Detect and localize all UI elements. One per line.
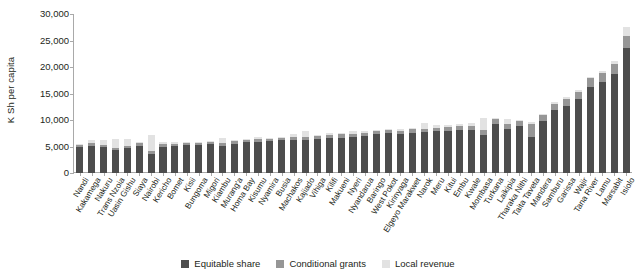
bar-segment-equitable-share — [136, 146, 143, 173]
bar-group — [243, 139, 250, 173]
bar-segment-equitable-share — [266, 141, 273, 173]
legend-label: Conditional grants — [289, 258, 366, 269]
bar-segment-equitable-share — [361, 136, 368, 173]
bar-segment-conditional-grants — [528, 124, 535, 137]
bar-segment-equitable-share — [314, 139, 321, 173]
bar-segment-equitable-share — [575, 99, 582, 173]
bar-series-group — [74, 14, 632, 173]
legend-swatch-icon — [181, 260, 189, 268]
bar-group — [231, 140, 238, 173]
bar-segment-equitable-share — [444, 131, 451, 173]
bar-group — [504, 119, 511, 173]
bar-segment-equitable-share — [516, 126, 523, 173]
bar-group — [171, 142, 178, 173]
bar-segment-equitable-share — [349, 137, 356, 173]
bar-segment-local-revenue — [148, 135, 155, 150]
bar-group — [254, 137, 261, 173]
bar-group — [159, 142, 166, 173]
bar-segment-local-revenue — [124, 139, 131, 146]
bar-segment-equitable-share — [76, 147, 83, 173]
bar-group — [468, 123, 475, 173]
bar-group — [314, 135, 321, 173]
bar-group — [112, 139, 119, 173]
y-axis-tick-label: 0 — [9, 168, 69, 178]
bar-segment-local-revenue — [480, 118, 487, 130]
bar-segment-equitable-share — [338, 138, 345, 174]
y-axis-tick-mark — [70, 173, 74, 174]
bar-segment-equitable-share — [207, 144, 214, 173]
bar-group — [100, 140, 107, 173]
bar-segment-equitable-share — [290, 140, 297, 173]
bar-segment-equitable-share — [611, 74, 618, 173]
bar-segment-equitable-share — [587, 87, 594, 173]
x-axis-labels: NandiKakamegaNakuruTrans NzoiaUasin Gish… — [74, 176, 636, 254]
bar-group — [302, 131, 309, 173]
y-axis-tick-label: 5,000 — [9, 142, 69, 152]
bar-segment-local-revenue — [623, 27, 630, 37]
bar-segment-equitable-share — [480, 135, 487, 173]
bar-segment-conditional-grants — [611, 64, 618, 74]
bar-group — [480, 118, 487, 173]
bar-group — [124, 139, 131, 173]
y-axis-tick-label: 15,000 — [9, 89, 69, 99]
bar-group — [611, 61, 618, 173]
legend-swatch-icon — [382, 260, 390, 268]
bar-group — [516, 120, 523, 174]
legend-item[interactable]: Equitable share — [181, 258, 260, 269]
bar-segment-equitable-share — [148, 154, 155, 173]
bar-segment-equitable-share — [539, 121, 546, 173]
bar-group — [183, 142, 190, 173]
bar-group — [88, 140, 95, 173]
bar-segment-equitable-share — [385, 133, 392, 173]
bar-group — [563, 97, 570, 173]
bar-segment-equitable-share — [302, 140, 309, 173]
bar-group — [207, 141, 214, 173]
legend-item[interactable]: Local revenue — [382, 258, 455, 269]
bar-group — [551, 102, 558, 173]
bar-segment-equitable-share — [278, 140, 285, 173]
legend-label: Local revenue — [395, 258, 455, 269]
bar-segment-equitable-share — [183, 145, 190, 173]
bar-segment-conditional-grants — [563, 99, 570, 106]
bar-segment-equitable-share — [397, 134, 404, 173]
legend-label: Equitable share — [194, 258, 260, 269]
y-axis-tick-label: 10,000 — [9, 115, 69, 125]
y-axis-tick-label: 20,000 — [9, 62, 69, 71]
bar-group — [397, 129, 404, 173]
bar-group — [326, 133, 333, 173]
bar-group — [623, 27, 630, 173]
bar-group — [492, 118, 499, 173]
bar-group — [421, 123, 428, 173]
bar-segment-conditional-grants — [599, 73, 606, 82]
bar-segment-conditional-grants — [623, 36, 630, 48]
bar-group — [528, 122, 535, 173]
bar-segment-equitable-share — [231, 144, 238, 173]
bar-group — [136, 142, 143, 173]
bar-group — [361, 131, 368, 173]
bar-segment-equitable-share — [504, 129, 511, 173]
plot-area: 05,00010,00015,00020,00025,00030,000 — [74, 14, 632, 173]
bar-group — [575, 90, 582, 173]
bar-segment-equitable-share — [219, 146, 226, 173]
bar-segment-equitable-share — [551, 110, 558, 173]
bar-segment-equitable-share — [254, 142, 261, 173]
bar-segment-equitable-share — [599, 82, 606, 173]
bar-group — [195, 142, 202, 173]
bar-group — [266, 138, 273, 173]
bar-group — [409, 128, 416, 173]
bar-segment-equitable-share — [468, 130, 475, 173]
legend-item[interactable]: Conditional grants — [276, 258, 366, 269]
bar-group — [148, 135, 155, 173]
bar-segment-equitable-share — [623, 48, 630, 173]
bar-segment-equitable-share — [100, 147, 107, 173]
bar-group — [433, 125, 440, 173]
bar-segment-equitable-share — [112, 150, 119, 173]
bar-segment-equitable-share — [124, 148, 131, 173]
legend-swatch-icon — [276, 260, 284, 268]
bar-group — [76, 144, 83, 173]
bar-segment-equitable-share — [456, 130, 463, 173]
chart-legend: Equitable shareConditional grantsLocal r… — [0, 258, 636, 269]
bar-segment-local-revenue — [112, 139, 119, 148]
bar-segment-equitable-share — [409, 133, 416, 173]
bar-segment-equitable-share — [528, 137, 535, 173]
